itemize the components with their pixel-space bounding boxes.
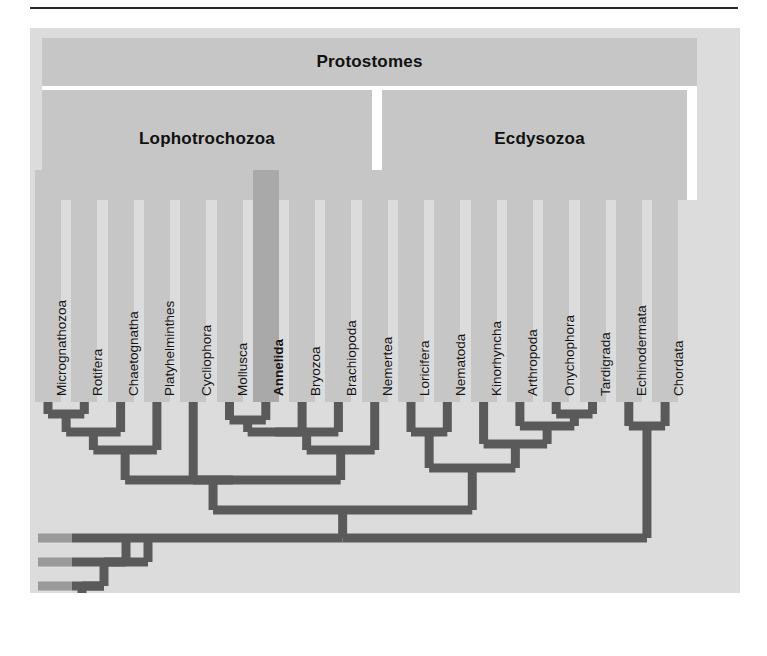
- outgroup-stub-3: [38, 582, 72, 591]
- outgroup-bar-4: [82, 582, 104, 591]
- phylogenetic-tree-figure: Protostomes Lophotrochozoa Ecdysozoa Mic…: [0, 0, 767, 656]
- bilateria-trunk: [148, 534, 343, 543]
- clade-protostomia-right-stem: [468, 468, 477, 510]
- clade-scalidophora-panarthropoda-left-stem: [479, 402, 488, 444]
- clade-lophotrochozoa-cycliophora-right-stem: [189, 402, 198, 480]
- deuterostome-stem: [642, 426, 651, 538]
- cladogram-branches: [30, 28, 740, 593]
- clade-nemertea-right-stem: [370, 402, 379, 450]
- outgroup-bar-3: [104, 558, 126, 567]
- clade-bilateria-bar: [343, 534, 647, 543]
- diagram-panel: Protostomes Lophotrochozoa Ecdysozoa Mic…: [30, 28, 740, 593]
- top-divider-rule: [30, 7, 738, 9]
- clade-lophotrochozoa-core-bar: [125, 476, 341, 485]
- outgroup-stub-1: [38, 534, 72, 543]
- clade-platyzoa-right-stem: [152, 402, 161, 450]
- outgroup-branch-1: [72, 534, 148, 543]
- outgroup-stub-2: [38, 558, 72, 567]
- clade-ecdysozoa-left-stem: [425, 432, 434, 468]
